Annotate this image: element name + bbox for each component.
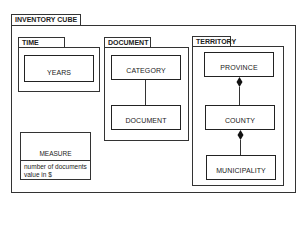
province-county-composition <box>237 77 243 105</box>
measure-attribute: value in $ <box>24 171 87 179</box>
county-municipality-composition <box>238 130 244 155</box>
measure-attribute: number of documents <box>24 163 87 171</box>
measure-class: MEASURE number of documents value in $ <box>20 132 91 180</box>
measure-attributes: number of documents value in $ <box>21 161 90 181</box>
composition-diamond-icon <box>237 77 243 87</box>
measure-label: MEASURE <box>39 150 71 157</box>
composition-diamond-icon <box>238 130 244 140</box>
measure-header: MEASURE <box>21 133 90 161</box>
